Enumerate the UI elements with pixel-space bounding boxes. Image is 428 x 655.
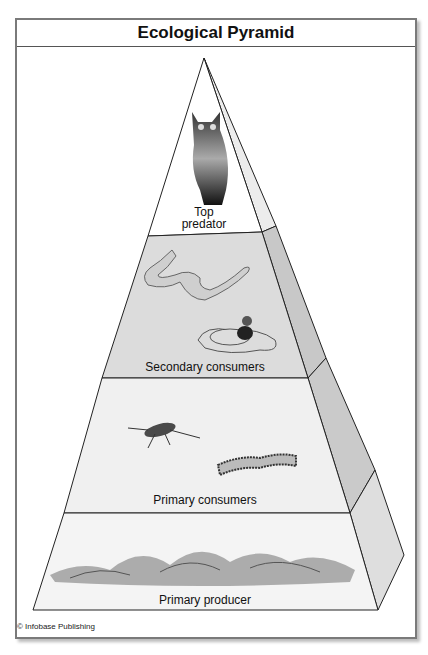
copyright-credit: © Infobase Publishing [17, 622, 95, 631]
tier-label-top-predator: Top predator [175, 206, 233, 230]
tier-label-primary-consumers: Primary consumers [130, 493, 280, 507]
tier-label-secondary-consumers: Secondary consumers [130, 360, 280, 374]
pyramid-graphic [0, 0, 428, 655]
tier-label-line2: predator [175, 218, 233, 230]
tier-label-primary-producer: Primary producer [130, 593, 280, 607]
